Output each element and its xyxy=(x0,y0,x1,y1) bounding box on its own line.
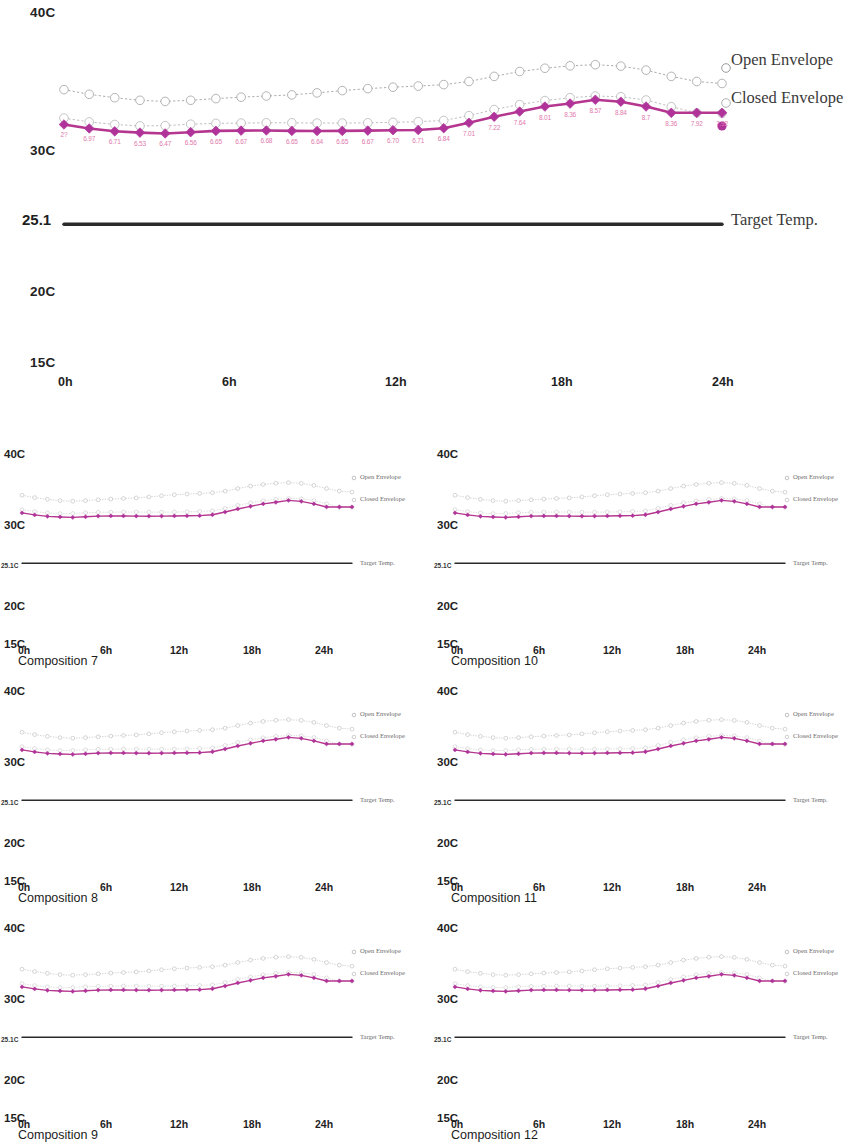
subplot-legend-target-temp: Target Temp. xyxy=(360,559,395,566)
main-point-label: 7.92 xyxy=(691,120,703,127)
subplot-legend-target-temp: Target Temp. xyxy=(793,796,828,803)
main-point-label: 6.65 xyxy=(210,138,222,145)
main-point-label: 6.84 xyxy=(438,135,450,142)
subplot-panel: 40C30C25.1C20C15C0h6h12h18h24hOpen Envel… xyxy=(433,440,865,675)
subplot-panel: 40C30C25.1C20C15C0h6h12h18h24hOpen Envel… xyxy=(433,677,865,912)
subplot-x-label-24h: 24h xyxy=(315,644,333,656)
subplot-panel: 40C30C25.1C20C15C0h6h12h18h24hOpen Envel… xyxy=(0,440,432,675)
subplot-caption: Composition 11 xyxy=(451,891,537,905)
subplot-x-label-24h: 24h xyxy=(315,881,333,893)
subplot-legend-open-envelope: Open Envelope xyxy=(360,710,401,717)
main-point-label: 6.71 xyxy=(109,138,121,145)
main-point-label: 8.7 xyxy=(642,114,650,121)
subplot-x-label-6h: 6h xyxy=(100,881,112,893)
subplot-caption: Composition 8 xyxy=(18,891,98,905)
subplot-caption: Composition 10 xyxy=(451,654,538,668)
subplot-x-label-18h: 18h xyxy=(676,644,694,656)
subplot-legend-open-envelope: Open Envelope xyxy=(360,473,401,480)
subplot-y-label-target: 25.1C xyxy=(434,1036,451,1043)
main-x-label-6h: 6h xyxy=(222,375,237,389)
main-point-label: 7.01 xyxy=(463,130,475,137)
subplot-panel: 40C30C25.1C20C15C0h6h12h18h24hOpen Envel… xyxy=(0,914,432,1146)
subplot-y-label-target: 25.1C xyxy=(434,799,451,806)
subplot-legend-target-temp: Target Temp. xyxy=(360,796,395,803)
main-legend-closed-envelope: Closed Envelope xyxy=(731,88,843,108)
main-point-label: 6.64 xyxy=(311,138,323,145)
main-point-label: 6.53 xyxy=(134,140,146,147)
main-point-label: 6.70 xyxy=(387,137,399,144)
subplot-y-label-30c: 30C xyxy=(4,993,25,1005)
subplot-panel: 40C30C25.1C20C15C0h6h12h18h24hOpen Envel… xyxy=(433,914,865,1146)
subplot-x-label-18h: 18h xyxy=(676,881,694,893)
subplot-caption: Composition 12 xyxy=(451,1128,538,1142)
main-point-label: 7.22 xyxy=(488,124,500,131)
subplot-x-label-6h: 6h xyxy=(100,1118,112,1130)
subplot-y-label-40c: 40C xyxy=(437,448,458,460)
subplot-x-label-12h: 12h xyxy=(170,881,188,893)
main-y-label-40c: 40C xyxy=(30,5,55,20)
main-x-label-12h: 12h xyxy=(385,375,407,389)
subplot-x-label-12h: 12h xyxy=(603,644,621,656)
subplot-legend-open-envelope: Open Envelope xyxy=(793,710,834,717)
subplot-x-label-18h: 18h xyxy=(243,644,261,656)
subplot-x-label-24h: 24h xyxy=(748,1118,766,1130)
subplot-legend-open-envelope: Open Envelope xyxy=(360,947,401,954)
subplot-y-label-target: 25.1C xyxy=(1,799,18,806)
subplot-legend-closed-envelope: Closed Envelope xyxy=(360,495,405,502)
main-point-label: 6.71 xyxy=(412,137,424,144)
subplot-legend-open-envelope: Open Envelope xyxy=(793,947,834,954)
subplot-x-label-12h: 12h xyxy=(170,644,188,656)
subplot-y-label-target: 25.1C xyxy=(434,562,451,569)
subplot-x-label-18h: 18h xyxy=(243,881,261,893)
subplot-caption: Composition 9 xyxy=(18,1128,98,1142)
main-x-label-18h: 18h xyxy=(551,375,573,389)
subplot-x-label-24h: 24h xyxy=(315,1118,333,1130)
main-point-label: 7.64 xyxy=(514,119,526,126)
main-x-label-0h: 0h xyxy=(58,375,73,389)
subplot-y-label-20c: 20C xyxy=(4,1074,25,1086)
subplot-y-label-20c: 20C xyxy=(4,837,25,849)
subplot-x-label-24h: 24h xyxy=(748,644,766,656)
subplot-legend-target-temp: Target Temp. xyxy=(793,559,828,566)
subplot-x-label-12h: 12h xyxy=(603,1118,621,1130)
subplot-x-label-12h: 12h xyxy=(603,881,621,893)
subplot-y-label-20c: 20C xyxy=(437,837,458,849)
subplot-y-label-30c: 30C xyxy=(437,519,458,531)
main-point-label: 6.97 xyxy=(83,135,95,142)
main-x-label-24h: 24h xyxy=(712,375,734,389)
main-point-label: 6.47 xyxy=(159,140,171,147)
subplot-legend-target-temp: Target Temp. xyxy=(360,1033,395,1040)
main-point-label: 6.68 xyxy=(260,137,272,144)
subplot-x-label-18h: 18h xyxy=(243,1118,261,1130)
subplot-y-label-30c: 30C xyxy=(437,756,458,768)
main-point-label: 8.01 xyxy=(539,114,551,121)
main-point-label: 6.56 xyxy=(185,139,197,146)
subplot-y-label-40c: 40C xyxy=(4,448,25,460)
subplot-legend-closed-envelope: Closed Envelope xyxy=(360,732,405,739)
subplot-y-label-30c: 30C xyxy=(4,756,25,768)
subplot-legend-open-envelope: Open Envelope xyxy=(793,473,834,480)
main-chart-panel: 40C 30C 25.1 20C 15C 0h 6h 12h 18h 24h O… xyxy=(0,0,865,400)
subplot-x-label-12h: 12h xyxy=(170,1118,188,1130)
subplot-y-label-40c: 40C xyxy=(4,922,25,934)
subplot-y-label-40c: 40C xyxy=(4,685,25,697)
main-point-label: 8.36 xyxy=(665,120,677,127)
subplot-y-label-target: 25.1C xyxy=(1,1036,18,1043)
subplot-y-label-20c: 20C xyxy=(437,600,458,612)
subplot-legend-closed-envelope: Closed Envelope xyxy=(793,732,838,739)
main-point-label: 2? xyxy=(61,131,68,138)
subplot-y-label-20c: 20C xyxy=(437,1074,458,1086)
subplot-legend-target-temp: Target Temp. xyxy=(793,1033,828,1040)
subplot-caption: Composition 7 xyxy=(18,654,98,668)
subplot-legend-closed-envelope: Closed Envelope xyxy=(793,969,838,976)
main-legend-open-envelope: Open Envelope xyxy=(731,50,833,70)
main-legend-target-temp: Target Temp. xyxy=(731,210,818,230)
main-point-label: 8.84 xyxy=(615,109,627,116)
subplot-x-label-6h: 6h xyxy=(100,644,112,656)
subplot-y-label-30c: 30C xyxy=(4,519,25,531)
main-y-label-15c: 15C xyxy=(30,355,55,370)
main-point-label: 6.67 xyxy=(235,138,247,145)
main-point-label: 7.92 xyxy=(716,120,728,127)
main-point-label: 8.36 xyxy=(564,111,576,118)
main-point-label: 6.65 xyxy=(286,138,298,145)
